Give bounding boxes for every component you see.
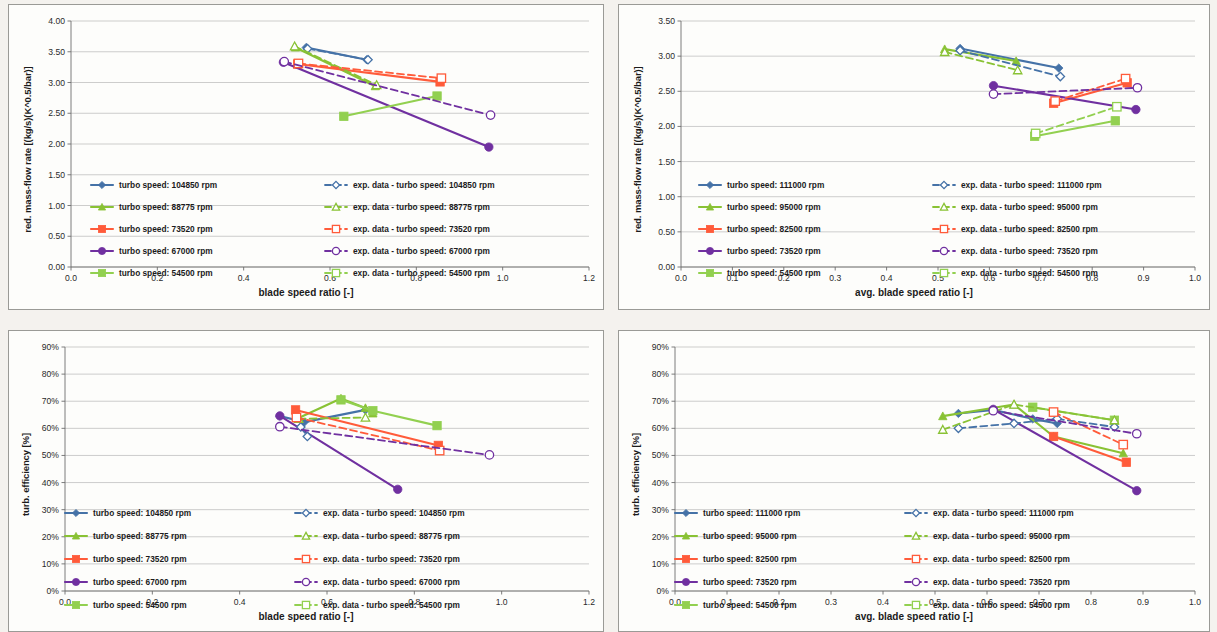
legend-label: turbo speed: 54500 rpm bbox=[119, 268, 213, 278]
plot-area-top-left: 0.000.501.001.502.002.503.003.504.000.00… bbox=[9, 5, 603, 309]
x-tick-label: 0.9 bbox=[1137, 597, 1149, 607]
legend-label: turbo speed: 67000 rpm bbox=[93, 577, 187, 587]
x-tick-label: 0.0 bbox=[675, 273, 687, 283]
x-tick-label: 0.4 bbox=[238, 273, 250, 283]
legend-label: exp. data - turbo speed: 54500 rpm bbox=[961, 268, 1098, 278]
legend-marker bbox=[682, 509, 689, 516]
y-axis-title: red. mass-flow rate [(kg/s)(K^0.5/bar)] bbox=[22, 66, 33, 232]
data-point-marker bbox=[437, 74, 445, 82]
legend-label: turbo speed: 54500 rpm bbox=[727, 268, 821, 278]
legend-label: exp. data - turbo speed: 67000 rpm bbox=[353, 246, 490, 256]
plot-area-bottom-right: 0%10%20%30%40%50%60%70%80%90%0.00.10.20.… bbox=[619, 331, 1209, 631]
x-tick-label: 0.4 bbox=[234, 597, 246, 607]
data-point-marker bbox=[1055, 64, 1063, 72]
y-tick-label: 0.00 bbox=[48, 262, 65, 272]
legend-label: turbo speed: 95000 rpm bbox=[703, 531, 797, 541]
legend-marker bbox=[940, 269, 947, 276]
data-point-marker bbox=[1133, 430, 1141, 438]
legend-label: exp. data - turbo speed: 95000 rpm bbox=[961, 202, 1098, 212]
y-tick-label: 70% bbox=[652, 396, 670, 406]
legend-label: exp. data - turbo speed: 104850 rpm bbox=[323, 508, 465, 518]
legend-marker bbox=[682, 555, 689, 562]
y-tick-label: 50% bbox=[652, 450, 670, 460]
legend-marker bbox=[912, 578, 919, 585]
y-tick-label: 0.50 bbox=[658, 227, 675, 237]
x-axis-title: avg. blade speed ratio [-] bbox=[619, 611, 1209, 622]
legend-marker bbox=[72, 578, 79, 585]
legend-marker bbox=[302, 532, 309, 539]
legend-label: turbo speed: 88775 rpm bbox=[93, 531, 187, 541]
legend-marker bbox=[72, 509, 79, 516]
legend-marker bbox=[682, 601, 689, 608]
data-point-marker bbox=[433, 92, 441, 100]
legend-marker bbox=[98, 247, 105, 254]
legend-label: exp. data - turbo speed: 88775 rpm bbox=[323, 531, 460, 541]
data-point-marker bbox=[369, 407, 377, 415]
y-tick-label: 50% bbox=[42, 450, 60, 460]
data-point-marker bbox=[1113, 103, 1121, 111]
legend-label: turbo speed: 73520 rpm bbox=[93, 554, 187, 564]
data-point-marker bbox=[337, 396, 345, 404]
x-tick-label: 0.4 bbox=[881, 273, 893, 283]
data-point-marker bbox=[486, 111, 494, 119]
y-tick-label: 70% bbox=[42, 396, 60, 406]
x-tick-label: 1.0 bbox=[496, 597, 508, 607]
y-tick-label: 60% bbox=[42, 423, 60, 433]
data-point-marker bbox=[1111, 117, 1119, 125]
legend-marker bbox=[332, 247, 339, 254]
legend-label: turbo speed: 95000 rpm bbox=[727, 202, 821, 212]
series-line bbox=[960, 48, 1059, 68]
y-tick-label: 10% bbox=[652, 559, 670, 569]
data-point-marker bbox=[1119, 440, 1127, 448]
y-tick-label: 80% bbox=[42, 369, 60, 379]
chart-panel-bottom-left: 0%10%20%30%40%50%60%70%80%90%0.00.20.40.… bbox=[8, 330, 604, 632]
data-point-marker bbox=[280, 57, 288, 65]
y-tick-label: 0.50 bbox=[48, 231, 65, 241]
legend-label: turbo speed: 111000 rpm bbox=[703, 508, 800, 518]
y-tick-label: 40% bbox=[42, 478, 60, 488]
data-point-marker bbox=[394, 485, 402, 493]
plot-area-top-right: 0.000.501.001.502.002.503.003.500.00.10.… bbox=[619, 5, 1209, 309]
data-point-marker bbox=[276, 412, 284, 420]
legend-marker bbox=[98, 269, 105, 276]
x-tick-label: 0.4 bbox=[877, 597, 889, 607]
y-tick-label: 10% bbox=[42, 559, 60, 569]
y-tick-label: 0.00 bbox=[658, 262, 675, 272]
chart-top-left: 0.000.501.001.502.002.503.003.504.000.00… bbox=[9, 5, 603, 309]
data-point-marker bbox=[989, 81, 997, 89]
data-point-marker bbox=[1133, 84, 1141, 92]
legend-marker bbox=[72, 601, 79, 608]
plot-area-bottom-left: 0%10%20%30%40%50%60%70%80%90%0.00.20.40.… bbox=[9, 331, 603, 631]
legend-label: exp. data - turbo speed: 73520 rpm bbox=[961, 246, 1098, 256]
series-line bbox=[298, 64, 440, 82]
legend-marker bbox=[332, 269, 339, 276]
data-point-marker bbox=[292, 413, 300, 421]
legend-label: turbo speed: 54500 rpm bbox=[93, 600, 187, 610]
data-point-marker bbox=[1133, 486, 1141, 494]
legend-marker bbox=[332, 203, 339, 210]
y-tick-label: 0% bbox=[47, 586, 60, 596]
legend-marker bbox=[706, 181, 713, 188]
chart-panel-top-left: 0.000.501.001.502.002.503.003.504.000.00… bbox=[8, 4, 604, 310]
legend-label: turbo speed: 82500 rpm bbox=[727, 224, 821, 234]
legend-marker bbox=[940, 181, 947, 188]
chart-panel-top-right: 0.000.501.001.502.002.503.003.500.00.10.… bbox=[618, 4, 1210, 310]
data-point-marker bbox=[276, 423, 284, 431]
legend-marker bbox=[682, 578, 689, 585]
chart-bottom-left: 0%10%20%30%40%50%60%70%80%90%0.00.20.40.… bbox=[9, 331, 603, 631]
legend-label: exp. data - turbo speed: 73520 rpm bbox=[353, 224, 490, 234]
y-tick-label: 30% bbox=[652, 505, 670, 515]
y-axis-title: turb. efficiency [%] bbox=[630, 433, 641, 516]
legend-marker bbox=[302, 578, 309, 585]
y-tick-label: 90% bbox=[652, 342, 670, 352]
y-tick-label: 30% bbox=[42, 505, 60, 515]
legend-marker bbox=[332, 181, 339, 188]
legend-label: exp. data - turbo speed: 54500 rpm bbox=[933, 600, 1070, 610]
y-tick-label: 1.50 bbox=[658, 157, 675, 167]
x-axis-title: blade speed ratio [-] bbox=[9, 287, 603, 298]
data-point-marker bbox=[1049, 432, 1057, 440]
legend-label: turbo speed: 82500 rpm bbox=[703, 554, 797, 564]
y-tick-label: 40% bbox=[652, 478, 670, 488]
chart-top-right: 0.000.501.001.502.002.503.003.500.00.10.… bbox=[619, 5, 1209, 309]
data-point-marker bbox=[1121, 74, 1129, 82]
